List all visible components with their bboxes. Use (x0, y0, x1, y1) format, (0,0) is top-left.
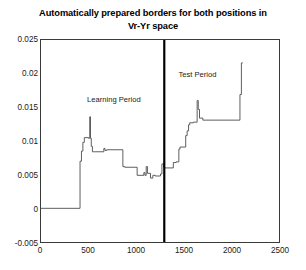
y-tick-label: 0 (0, 205, 38, 214)
y-tick-label: 0.015 (0, 103, 38, 112)
x-tick-label: 2500 (250, 246, 306, 255)
chart-figure: Automatically prepared borders for both … (0, 0, 306, 270)
plot-area (40, 39, 280, 243)
chart-annotation-label: Learning Period (87, 95, 141, 104)
y-tick-label: 0.005 (0, 171, 38, 180)
chart-annotation-label: Test Period (178, 70, 216, 79)
y-tick-label: 0.025 (0, 35, 38, 44)
data-curve-layer (41, 40, 279, 242)
y-tick-label: 0.02 (0, 69, 38, 78)
chart-title: Automatically prepared borders for both … (0, 7, 306, 32)
chart-title-line-2: Vr-Yr space (0, 20, 306, 33)
chart-title-line-1: Automatically prepared borders for both … (0, 7, 306, 20)
y-tick-label: 0.01 (0, 137, 38, 146)
data-series-line (41, 63, 243, 208)
